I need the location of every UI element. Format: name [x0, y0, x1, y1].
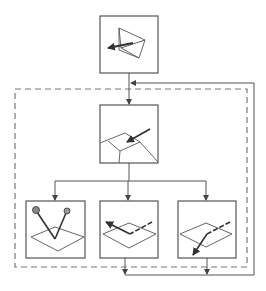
diagram-canvas	[0, 0, 266, 291]
edge-bottom-to-loop	[125, 258, 207, 274]
node-top-frustum	[100, 16, 158, 73]
node-bottom-right-refraction	[178, 201, 236, 258]
node-middle-surface-hit	[100, 105, 158, 163]
node-bottom-left-reflection	[26, 201, 85, 258]
edge-middle-branches	[55, 163, 206, 200]
node-bottom-middle-specular	[100, 201, 158, 258]
